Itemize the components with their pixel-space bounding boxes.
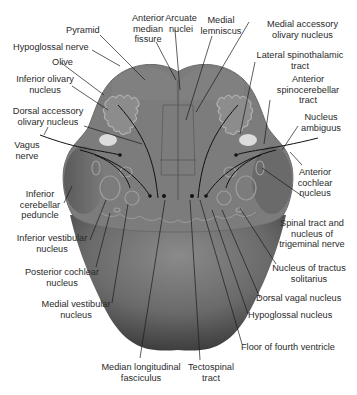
left-pale-oval [99,134,117,146]
label-inferior-cerebellar-peduncle: Inferior cerebellar peduncle [14,189,66,221]
label-hypoglossal-nerve: Hypoglossal nerve [13,42,89,53]
label-anterior-cochlear-nucleus: Anterior cochlear nucleus [290,167,340,199]
label-medial-vestibular-nucleus: Medial vestibular nucleus [40,299,112,320]
label-hypoglossal-nucleus: Hypoglossal nucleus [248,310,332,321]
label-spinal-tract-nucleus-trigeminal: Spinal tract and nucleus of trigeminal n… [270,218,354,250]
label-medial-lemniscus: Medial lemniscus [198,15,244,36]
label-lateral-spinothalamic-tract: Lateral spinothalamic tract [250,50,350,71]
label-anterior-spinocerebellar-tract: Anterior spinocerebellar tract [268,74,348,106]
label-median-longitudinal-fasciculus: Median longitudinal fasciculus [100,362,182,383]
label-nucleus-tractus-solitarius: Nucleus of tractus solitarius [264,263,354,284]
label-floor-of-fourth-ventricle: Floor of fourth ventricle [241,342,335,353]
right-pale-oval [239,134,257,146]
label-nucleus-ambiguus: Nucleus ambiguus [296,112,346,133]
label-inferior-olivary-nucleus: Inferior olivary nucleus [12,74,78,95]
label-vagus-nerve: Vagus nerve [12,140,42,161]
label-tectospinal-tract: Tectospinal tract [186,362,236,383]
label-olive: Olive [52,57,73,68]
label-arcuate-nuclei: Arcuate nuclei [160,13,202,34]
label-dorsal-vagal-nucleus: Dorsal vagal nucleus [256,293,341,304]
label-posterior-cochlear-nucleus: Posterior cochlear nucleus [24,267,100,288]
label-inferior-vestibular-nucleus: Inferior vestibular nucleus [14,233,90,254]
label-pyramid: Pyramid [66,25,100,36]
label-dorsal-accessory-olivary-nucleus: Dorsal accessory olivary nucleus [10,106,86,127]
label-medial-accessory-olivary-nucleus: Medial accessory olivary nucleus [250,19,355,40]
